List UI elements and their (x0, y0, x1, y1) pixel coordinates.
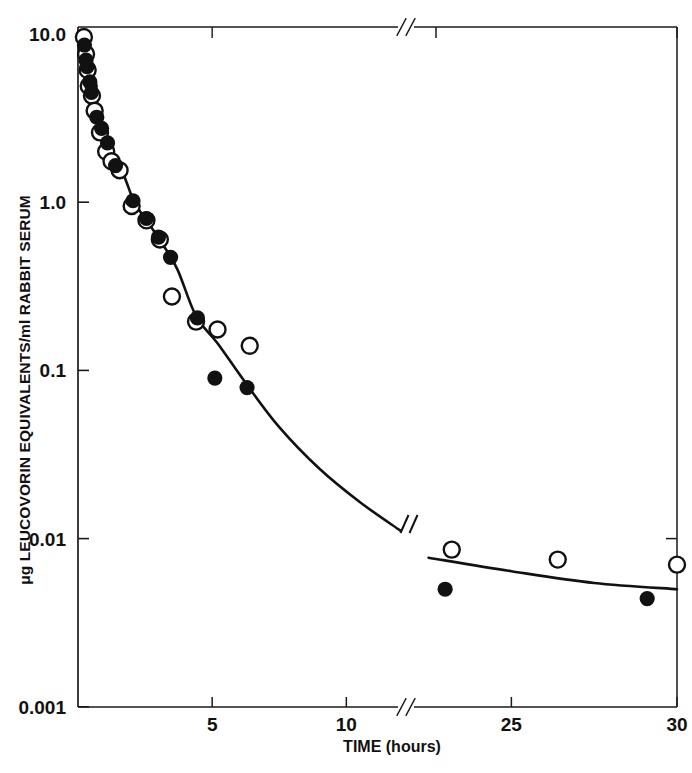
x-tick-label: 25 (501, 714, 523, 735)
y-tick-label: 0.1 (40, 360, 67, 381)
x-axis-title: TIME (hours) (343, 738, 441, 755)
x-tick-label: 30 (666, 714, 687, 735)
fitted-curve (86, 58, 677, 589)
y-tick-label: 0.01 (29, 529, 66, 550)
x-tick-10: 10 (336, 697, 357, 735)
filled-circle-data-points (77, 37, 655, 606)
data-point-filled (80, 59, 95, 74)
x-tick-25: 25 (501, 697, 523, 735)
figure-container: 10.01.00.10.010.001 5102530 TIME (hours)… (0, 0, 692, 773)
data-point-filled (163, 250, 178, 265)
data-point-filled (77, 37, 92, 52)
data-point-open (550, 552, 566, 568)
y-tick-0.1: 0.1 (40, 360, 89, 381)
x-tick-5: 5 (207, 697, 218, 735)
axis-break-markers (397, 18, 415, 716)
y-tick-label: 10.0 (29, 24, 66, 45)
y-axis-title: μg LEUCOVORIN EQUIVALENTS/ml RABBIT SERU… (16, 195, 33, 585)
data-point-open (444, 542, 460, 558)
y-tick-label: 1.0 (40, 192, 66, 213)
data-point-filled (139, 211, 154, 226)
open-circle-data-points (76, 29, 685, 573)
y-tick-1.0: 1.0 (40, 192, 89, 213)
y-axis-ticks: 10.01.00.10.010.001 (18, 24, 677, 718)
data-point-filled (239, 380, 254, 395)
plot-frame (78, 27, 677, 707)
x-axis-ticks: 5102530 (207, 697, 688, 735)
data-point-filled (125, 193, 140, 208)
y-tick-label: 0.001 (18, 697, 66, 718)
data-point-filled (640, 591, 655, 606)
x-tick-label: 10 (336, 714, 357, 735)
y-tick-0.01: 0.01 (29, 529, 89, 550)
data-point-filled (94, 121, 109, 136)
data-point-filled (207, 371, 222, 386)
data-point-open (210, 322, 226, 338)
data-point-filled (190, 310, 205, 325)
data-point-filled (108, 158, 123, 173)
x-tick-label: 5 (207, 714, 218, 735)
data-point-open (669, 557, 685, 573)
pharmacokinetic-decay-chart: 10.01.00.10.010.001 5102530 TIME (hours)… (0, 0, 692, 773)
data-point-open (164, 289, 180, 305)
data-point-filled (151, 230, 166, 245)
data-point-filled (100, 135, 115, 150)
x-tick-30: 30 (666, 697, 687, 735)
data-point-filled (84, 85, 99, 100)
data-point-open (242, 338, 258, 354)
data-point-filled (438, 582, 453, 597)
